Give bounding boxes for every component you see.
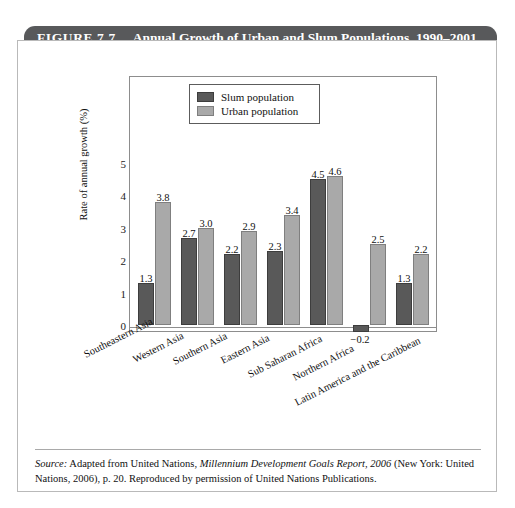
source-text-before: Adapted from United Nations,: [67, 458, 199, 469]
source-prefix: Source:: [35, 458, 67, 469]
legend-label-urban: Urban population: [221, 105, 298, 117]
value-slum-eastern-asia: 2.3: [262, 241, 288, 252]
bar-urban-eastern-asia[interactable]: [284, 215, 300, 325]
chart-region: Rate of annual growth (%) 0 1 2 3 4 5 1.…: [18, 41, 498, 493]
legend-label-slum: Slum population: [221, 91, 294, 103]
bar-group-latin-america-caribbean: 1.3 2.2: [394, 77, 436, 331]
figure-box: Rate of annual growth (%) 0 1 2 3 4 5 1.…: [17, 40, 497, 492]
y-tick-3: 3: [112, 223, 126, 235]
value-urban-sub-saharan-africa: 4.6: [322, 166, 348, 177]
value-urban-latin-america-caribbean: 2.2: [408, 244, 434, 255]
value-urban-eastern-asia: 3.4: [279, 205, 305, 216]
source-divider: [35, 449, 481, 450]
source-note: Source: Adapted from United Nations, Mil…: [35, 456, 483, 486]
bar-urban-latin-america-caribbean[interactable]: [413, 254, 429, 325]
bar-slum-northern-africa[interactable]: [353, 325, 369, 332]
y-tick-5: 5: [112, 158, 126, 170]
bar-urban-western-asia[interactable]: [198, 228, 214, 325]
legend-item-urban-population: Urban population: [197, 104, 312, 118]
bar-group-northern-africa: −0.2 2.5: [351, 77, 393, 331]
chart-legend: Slum population Urban population: [189, 84, 320, 124]
legend-item-slum-population: Slum population: [197, 90, 312, 104]
bar-slum-sub-saharan-africa[interactable]: [310, 179, 326, 325]
bar-urban-northern-africa[interactable]: [370, 244, 386, 325]
value-urban-southern-asia: 2.9: [236, 221, 262, 232]
bar-slum-southern-asia[interactable]: [224, 254, 240, 325]
value-urban-western-asia: 3.0: [193, 218, 219, 229]
bar-urban-sub-saharan-africa[interactable]: [327, 176, 343, 325]
value-slum-southern-asia: 2.2: [219, 244, 245, 255]
y-tick-2: 2: [112, 255, 126, 267]
legend-swatch-urban-icon: [197, 106, 214, 116]
source-publication-title: Millennium Development Goals Report, 200…: [200, 458, 392, 469]
value-slum-southeastern-asia: 1.3: [133, 273, 159, 284]
value-urban-southeastern-asia: 3.8: [150, 192, 176, 203]
y-tick-4: 4: [112, 190, 126, 202]
bar-group-southeastern-asia: 1.3 3.8: [136, 77, 178, 331]
y-tick-1: 1: [112, 288, 126, 300]
bar-urban-southeastern-asia[interactable]: [155, 202, 171, 325]
y-axis-tick-labels: 0 1 2 3 4 5: [108, 76, 126, 332]
value-slum-western-asia: 2.7: [176, 228, 202, 239]
value-urban-northern-africa: 2.5: [365, 234, 391, 245]
legend-swatch-slum-icon: [197, 92, 214, 102]
bar-slum-eastern-asia[interactable]: [267, 251, 283, 326]
x-axis-category-labels: Southeastern Asia Western Asia Southern …: [18, 332, 498, 452]
bar-slum-latin-america-caribbean[interactable]: [396, 283, 412, 325]
value-slum-latin-america-caribbean: 1.3: [391, 273, 417, 284]
bar-slum-western-asia[interactable]: [181, 238, 197, 326]
y-axis-title: Rate of annual growth (%): [78, 70, 89, 260]
